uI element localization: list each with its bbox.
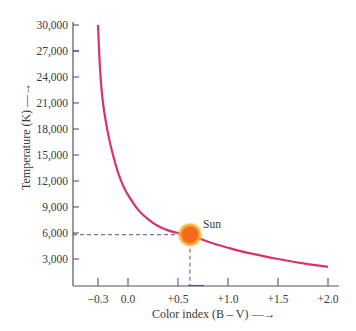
x-tick-label: −0.3 (88, 293, 109, 305)
sun-marker (177, 222, 203, 248)
temperature-curve (98, 25, 328, 267)
x-tick-label: +0.5 (168, 293, 189, 305)
y-axis-title: Temperature (K) —→ (19, 83, 33, 190)
y-tick-label: 27,000 (36, 45, 68, 58)
y-tick-label: 30,000 (36, 19, 68, 32)
y-tick-label: 24,000 (36, 71, 68, 84)
y-tick-label: 21,000 (36, 97, 68, 110)
x-tick-label: +2.0 (318, 293, 339, 305)
x-axis-ticks: −0.30.0+0.5+1.0+1.5+2.0 (88, 278, 339, 305)
x-tick-label: 0.0 (121, 293, 136, 305)
chart: 3,0006,0009,00012,00015,00018,00021,0002… (0, 0, 356, 331)
y-tick-label: 18,000 (36, 123, 68, 136)
x-axis-title: Color index (B – V) —→ (152, 307, 275, 321)
y-tick-label: 3,000 (42, 253, 68, 266)
y-tick-label: 12,000 (36, 175, 68, 188)
x-tick-label: +1.0 (218, 293, 239, 305)
y-tick-label: 6,000 (42, 227, 68, 240)
y-tick-label: 9,000 (42, 201, 68, 214)
x-tick-label: +1.5 (268, 293, 289, 305)
y-tick-label: 15,000 (36, 149, 68, 162)
sun-label: Sun (203, 218, 221, 230)
